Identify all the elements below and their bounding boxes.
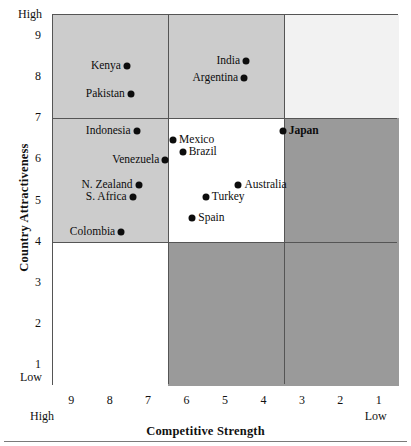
- y-axis-title: Country Attractiveness: [17, 138, 32, 278]
- x-tick-1: 1: [376, 394, 382, 406]
- horizontal-divider-1: [53, 118, 397, 119]
- data-point-n-zealand: [135, 182, 142, 189]
- data-label-indonesia: Indonesia: [86, 126, 131, 138]
- x-tick-8: 8: [107, 394, 113, 406]
- matrix-cell-r3-c2: [168, 242, 283, 386]
- data-label-australia: Australia: [244, 179, 286, 191]
- y-tick-8: 8: [0, 70, 46, 82]
- vertical-divider-2: [284, 15, 285, 384]
- data-label-venezuela: Venezuela: [112, 155, 159, 167]
- data-label-india: India: [217, 56, 241, 68]
- data-point-mexico: [170, 136, 177, 143]
- data-point-kenya: [123, 62, 130, 69]
- y-tick-7: 7: [0, 111, 46, 123]
- horizontal-divider-2: [53, 242, 397, 243]
- data-point-japan: [279, 128, 286, 135]
- data-label-colombia: Colombia: [70, 227, 115, 239]
- y-tick-1: 1: [0, 358, 46, 370]
- matrix-cell-r1-c3: [284, 15, 399, 118]
- x-tick-7: 7: [145, 394, 151, 406]
- data-label-s-africa: S. Africa: [86, 192, 127, 204]
- data-point-india: [243, 58, 250, 65]
- data-label-mexico: Mexico: [179, 134, 214, 146]
- data-label-japan: Japan: [289, 126, 319, 138]
- y-tick-2: 2: [0, 317, 46, 329]
- data-label-brazil: Brazil: [189, 146, 217, 158]
- data-label-turkey: Turkey: [212, 192, 245, 204]
- data-point-turkey: [202, 194, 209, 201]
- data-point-indonesia: [133, 128, 140, 135]
- data-label-pakistan: Pakistan: [86, 89, 125, 101]
- y-endcap-low: Low: [20, 371, 42, 383]
- data-point-venezuela: [162, 157, 169, 164]
- data-point-brazil: [179, 149, 186, 156]
- vertical-divider-1: [168, 15, 169, 384]
- data-label-spain: Spain: [198, 212, 224, 224]
- y-endcap-high: High: [18, 8, 42, 20]
- y-tick-9: 9: [0, 29, 46, 41]
- data-point-s-africa: [129, 194, 136, 201]
- data-point-spain: [189, 215, 196, 222]
- x-tick-3: 3: [299, 394, 305, 406]
- data-label-n-zealand: N. Zealand: [81, 179, 132, 191]
- data-point-argentina: [241, 74, 248, 81]
- y-tick-3: 3: [0, 276, 46, 288]
- matrix-cell-r3-c1: [53, 242, 168, 386]
- footer-rule: [4, 441, 407, 442]
- x-tick-2: 2: [337, 394, 343, 406]
- x-tick-9: 9: [68, 394, 74, 406]
- x-endcap-low: Low: [365, 410, 387, 422]
- x-axis-title: Competitive Strength: [0, 424, 411, 439]
- x-tick-5: 5: [222, 394, 228, 406]
- x-endcap-high: High: [30, 410, 54, 422]
- data-label-argentina: Argentina: [192, 72, 238, 84]
- data-point-australia: [235, 182, 242, 189]
- x-tick-6: 6: [184, 394, 190, 406]
- country-portfolio-matrix-chart: 987654321987654321HighLowHighLow KenyaPa…: [0, 0, 411, 446]
- matrix-cell-r3-c3: [284, 242, 399, 386]
- data-point-pakistan: [127, 91, 134, 98]
- x-tick-4: 4: [260, 394, 266, 406]
- data-point-colombia: [118, 229, 125, 236]
- data-label-kenya: Kenya: [91, 60, 121, 72]
